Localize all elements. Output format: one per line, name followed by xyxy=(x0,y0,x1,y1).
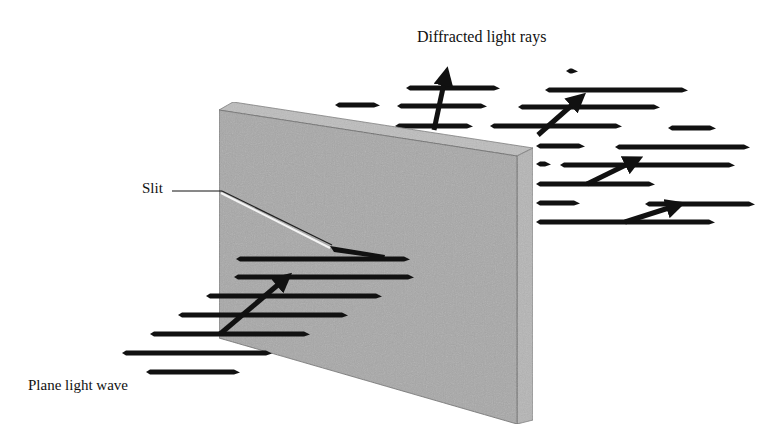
incident-wavefront xyxy=(234,274,414,279)
diffraction-diagram: Diffracted light rays Slit Plane light w… xyxy=(0,0,783,439)
diffracted-wavefront xyxy=(566,68,578,73)
diagram-canvas xyxy=(0,0,783,439)
incident-wavefront xyxy=(150,331,310,336)
diffracted-wavefront xyxy=(545,87,688,92)
diffracted-wavefront xyxy=(518,104,660,109)
barrier xyxy=(219,102,533,424)
barrier-side-face xyxy=(517,148,533,424)
incident-wavefront xyxy=(146,369,240,374)
diffracted-wavefront xyxy=(536,143,585,148)
incident-wavefront xyxy=(178,312,348,317)
diffracted-wavefront xyxy=(645,201,755,206)
slit-label: Slit xyxy=(142,180,163,197)
plane-wave-label: Plane light wave xyxy=(28,377,128,394)
barrier-front-face xyxy=(219,110,517,424)
incident-wavefront xyxy=(206,293,382,298)
diffracted-wavefront xyxy=(490,123,622,128)
incident-wavefront xyxy=(236,256,410,261)
incident-wavefront xyxy=(122,350,272,355)
diffracted-arrow-diag-1-icon xyxy=(538,98,580,135)
diffracted-wavefront xyxy=(668,125,716,130)
diffracted-wavefront xyxy=(536,200,580,205)
diffracted-arrow-up-icon xyxy=(434,74,446,130)
diffracted-wavefront xyxy=(536,161,551,166)
diffracted-wavefront xyxy=(406,85,500,90)
diffracted-rays-label: Diffracted light rays xyxy=(417,28,546,46)
diffracted-wavefront xyxy=(335,102,380,107)
diffracted-wavefront xyxy=(560,162,735,167)
diffracted-wavefront xyxy=(615,144,750,149)
